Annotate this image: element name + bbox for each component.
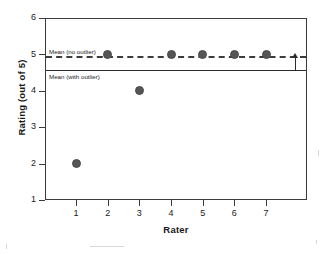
x-axis-tick-6: [234, 200, 235, 206]
y-axis-tick-1: [39, 200, 45, 201]
mean-with-outlier-label: Mean (with outlier): [49, 73, 100, 80]
x-axis-tick-label-6: 6: [224, 208, 244, 218]
data-point-rater-6: [230, 50, 239, 59]
x-axis-tick-2: [108, 200, 109, 206]
y-axis-tick-6: [39, 18, 45, 19]
x-axis-tick-7: [266, 200, 267, 206]
scatter-chart-figure: 6 5 4 3 2 1 1 2 3 4 5 6 7 Mean (with out…: [0, 0, 324, 254]
data-point-rater-4: [167, 50, 176, 59]
data-point-rater-7: [262, 50, 271, 59]
y-axis-tick-label-1: 1: [20, 195, 36, 204]
mean-no-outlier-label: Mean (no outlier): [49, 48, 96, 55]
y-axis-tick-4: [39, 91, 45, 92]
y-axis-tick-label-6: 6: [20, 13, 36, 22]
x-axis-tick-label-3: 3: [129, 208, 149, 218]
x-axis-tick-4: [171, 200, 172, 206]
scan-artifact-bottom-right: [316, 240, 317, 244]
x-axis-tick-label-5: 5: [193, 208, 213, 218]
mean-shift-arrow-head: [292, 53, 298, 58]
y-axis-tick-2: [39, 164, 45, 165]
x-axis-tick-3: [139, 200, 140, 206]
plot-area: [45, 18, 307, 200]
y-axis-title: Rating (out of 5): [16, 28, 27, 168]
x-axis-tick-label-1: 1: [66, 208, 86, 218]
x-axis-title: Rater: [45, 224, 307, 235]
y-axis-tick-5: [39, 54, 45, 55]
scan-artifact-right: [318, 150, 319, 156]
x-axis-tick-5: [203, 200, 204, 206]
scan-artifact-bottom-mid: [90, 246, 124, 247]
x-axis-tick-label-4: 4: [161, 208, 181, 218]
y-axis-tick-3: [39, 127, 45, 128]
x-axis-tick-label-2: 2: [98, 208, 118, 218]
x-axis-tick-label-7: 7: [256, 208, 276, 218]
data-point-rater-1: [72, 159, 81, 168]
scan-artifact-bottom-left: [6, 244, 7, 249]
mean-shift-arrow-shaft: [295, 56, 296, 71]
mean-with-outlier-line: [46, 70, 306, 71]
x-axis-tick-1: [76, 200, 77, 206]
